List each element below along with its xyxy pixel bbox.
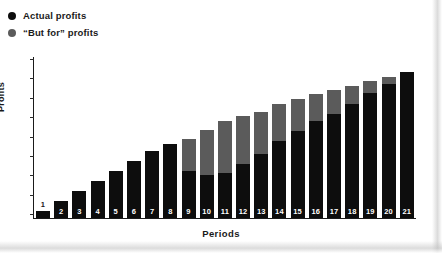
bar-segment-actual xyxy=(345,104,359,218)
bar-column[interactable]: 6 xyxy=(127,57,141,218)
bar-column[interactable]: 9 xyxy=(182,57,196,218)
bar-segment-but-for xyxy=(218,121,232,173)
bar-column[interactable]: 8 xyxy=(163,57,177,218)
bar-stack: 2 xyxy=(54,201,68,218)
bar-segment-actual xyxy=(382,84,396,218)
bar-segment-actual xyxy=(36,211,50,218)
legend-item-but-for-profits: “But for” profits xyxy=(8,24,208,41)
bar-label-period: 16 xyxy=(309,208,323,216)
bar-column[interactable]: 21 xyxy=(400,57,414,218)
bar-label-period: 21 xyxy=(400,208,414,216)
legend-marker-circle-actual xyxy=(8,12,16,20)
bar-column[interactable]: 19 xyxy=(363,57,377,218)
bar-column[interactable]: 13 xyxy=(254,57,268,218)
plot-area: 123456789101112131415161718192021 xyxy=(33,57,416,219)
page-edge-bottom-shadow xyxy=(0,241,442,253)
bar-stack: 7 xyxy=(145,151,159,218)
bar-stack: 17 xyxy=(327,90,341,218)
bar-column[interactable]: 18 xyxy=(345,57,359,218)
bar-label-period: 17 xyxy=(327,208,341,216)
bar-segment-but-for xyxy=(291,99,305,131)
bar-stack: 16 xyxy=(309,94,323,218)
bar-segment-but-for xyxy=(236,116,250,163)
bar-stack: 15 xyxy=(291,99,305,218)
bar-stack: 6 xyxy=(127,161,141,218)
bar-segment-actual xyxy=(363,93,377,218)
bar-column[interactable]: 12 xyxy=(236,57,250,218)
bar-column[interactable]: 20 xyxy=(382,57,396,218)
bar-label-period: 6 xyxy=(127,208,141,216)
bar-segment-but-for xyxy=(345,86,359,105)
bar-stack: 10 xyxy=(200,130,214,218)
bar-segment-actual xyxy=(400,72,414,218)
bar-label-period: 10 xyxy=(200,208,214,216)
bar-label-period: 5 xyxy=(109,208,123,216)
bar-segment-actual xyxy=(327,114,341,218)
bar-stack: 20 xyxy=(382,77,396,218)
y-axis-tick xyxy=(30,117,34,118)
y-axis-tick xyxy=(30,175,34,176)
chart-legend: Actual profits “But for” profits xyxy=(8,7,208,41)
bar-column[interactable]: 5 xyxy=(109,57,123,218)
bar-label-period: 4 xyxy=(91,208,105,216)
bar-column[interactable]: 7 xyxy=(145,57,159,218)
bar-segment-but-for xyxy=(272,104,286,141)
y-axis-tick xyxy=(30,156,34,157)
y-axis-tick xyxy=(30,98,34,99)
bar-segment-but-for xyxy=(363,81,377,93)
y-axis-tick xyxy=(30,137,34,138)
y-axis-tick xyxy=(30,78,34,79)
bar-stack: 21 xyxy=(400,72,414,218)
legend-label-actual-profits: Actual profits xyxy=(23,10,86,21)
bar-label-period: 12 xyxy=(236,208,250,216)
bar-segment-but-for xyxy=(182,139,196,171)
bar-column[interactable]: 15 xyxy=(291,57,305,218)
bar-stack: 12 xyxy=(236,116,250,218)
page-edge-right-shadow xyxy=(432,0,442,253)
bar-stack: 5 xyxy=(109,171,123,218)
bar-column[interactable]: 2 xyxy=(54,57,68,218)
legend-item-actual-profits: Actual profits xyxy=(8,7,208,24)
bar-stack: 19 xyxy=(363,81,377,218)
bar-label-period: 13 xyxy=(254,208,268,216)
bar-stack: 9 xyxy=(182,139,196,218)
bar-column[interactable]: 14 xyxy=(272,57,286,218)
y-axis-tick xyxy=(30,59,34,60)
bar-stack: 11 xyxy=(218,121,232,218)
bar-column[interactable]: 4 xyxy=(91,57,105,218)
bar-label-period: 9 xyxy=(182,208,196,216)
bar-stack: 3 xyxy=(72,191,86,218)
bar-column[interactable]: 3 xyxy=(72,57,86,218)
bar-label-period: 7 xyxy=(145,208,159,216)
bar-label-period: 18 xyxy=(345,208,359,216)
bar-label-period: 1 xyxy=(36,201,50,209)
bar-stack: 8 xyxy=(163,144,177,218)
y-axis-tick xyxy=(30,195,34,196)
bar-label-period: 8 xyxy=(163,208,177,216)
bar-label-period: 15 xyxy=(291,208,305,216)
bar-segment-but-for xyxy=(200,130,214,175)
bar-stack: 1 xyxy=(36,211,50,218)
legend-label-but-for-profits: “But for” profits xyxy=(23,27,98,38)
bar-column[interactable]: 16 xyxy=(309,57,323,218)
bar-segment-but-for xyxy=(382,77,396,84)
bar-label-period: 2 xyxy=(54,208,68,216)
bar-segment-actual xyxy=(309,121,323,218)
bar-stack: 14 xyxy=(272,104,286,218)
legend-marker-circle-but-for xyxy=(8,29,16,37)
bar-segment-actual xyxy=(291,131,305,218)
bar-stack: 18 xyxy=(345,86,359,219)
bar-segment-but-for xyxy=(254,112,268,154)
y-axis-title: Profits xyxy=(0,82,6,112)
bar-column[interactable]: 11 xyxy=(218,57,232,218)
bar-column[interactable]: 10 xyxy=(200,57,214,218)
y-axis-tick xyxy=(30,214,34,215)
bar-label-period: 20 xyxy=(382,208,396,216)
bar-label-period: 11 xyxy=(218,208,232,216)
bar-label-period: 14 xyxy=(272,208,286,216)
bar-column[interactable]: 1 xyxy=(36,57,50,218)
bar-label-period: 3 xyxy=(72,208,86,216)
bar-label-period: 19 xyxy=(363,208,377,216)
bar-series-group: 123456789101112131415161718192021 xyxy=(36,57,414,218)
bar-column[interactable]: 17 xyxy=(327,57,341,218)
